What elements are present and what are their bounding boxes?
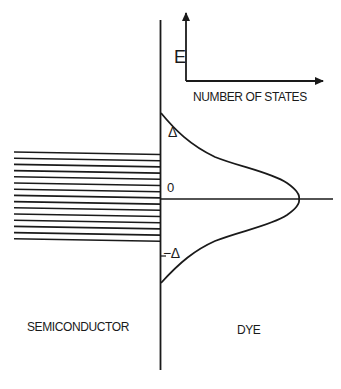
inset-axes <box>186 13 323 81</box>
number-of-states-label: NUMBER OF STATES <box>193 90 307 104</box>
zero-energy-label: 0 <box>167 180 174 195</box>
minus-delta-label: −Δ <box>163 245 180 261</box>
energy-level-diagram: E NUMBER OF STATES 0 Δ −Δ SEMICONDUCTOR … <box>0 0 341 389</box>
dye-label: DYE <box>237 323 260 337</box>
semiconductor-band-lines <box>14 152 160 241</box>
delta-label: Δ <box>168 124 177 140</box>
dye-gaussian-curve <box>161 113 299 283</box>
energy-axis-label: E <box>174 47 186 68</box>
semiconductor-label: SEMICONDUCTOR <box>27 320 129 334</box>
